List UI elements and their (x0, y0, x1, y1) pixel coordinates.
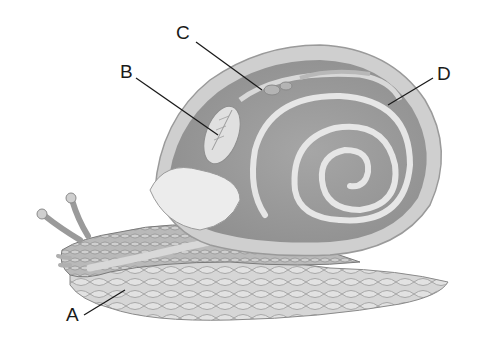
label-b: B (120, 62, 133, 81)
snail-shell (150, 45, 441, 256)
label-a: A (66, 305, 79, 324)
snail-illustration (0, 0, 484, 344)
label-d: D (437, 64, 451, 83)
label-c: C (176, 23, 190, 42)
snail-diagram: A B C D (0, 0, 484, 344)
